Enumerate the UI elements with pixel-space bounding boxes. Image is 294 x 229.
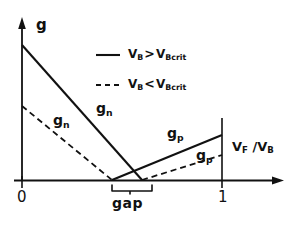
x-axis-label-denominator: V (257, 139, 267, 154)
y-axis (18, 17, 26, 181)
legend-2-lhs-sub: B (137, 83, 143, 92)
tick-label-one: 1 (218, 190, 228, 205)
curve-label-gp-dashed-sub: p (206, 154, 213, 165)
plot-canvas (0, 0, 294, 229)
x-axis-label-numerator: V (232, 139, 242, 154)
legend-2-lhs: V (128, 77, 137, 91)
curve-label-gp-solid: gp (167, 126, 184, 140)
curve-label-gp-solid-sub: p (177, 132, 184, 143)
legend-1-lhs-sub: B (137, 53, 143, 62)
legend-entry-solid-label: VB>VBcrit (128, 48, 186, 61)
legend-1-rhs-sub: Bcrit (165, 53, 186, 62)
gap-brace (112, 185, 152, 194)
legend-2-rhs: V (156, 77, 165, 91)
legend-2-rhs-sub: Bcrit (165, 83, 186, 92)
legend-2-relation: < (143, 76, 156, 91)
legend-1-lhs: V (128, 47, 137, 61)
curve-label-gp-solid-base: g (167, 125, 177, 141)
curve-label-gn-solid-base: g (96, 100, 106, 116)
tick-label-zero: 0 (17, 190, 27, 205)
x-axis (14, 177, 284, 185)
curve-label-gn-dashed-base: g (53, 112, 63, 128)
legend-entry-dashed-label: VB<VBcrit (128, 78, 186, 91)
x-axis-label-slash: / (248, 139, 257, 154)
curve-label-gp-dashed-base: g (196, 147, 206, 163)
curve-label-gn-solid: gn (96, 101, 113, 115)
legend-1-rhs: V (156, 47, 165, 61)
gap-annotation-label: gap (112, 196, 143, 210)
x-axis-label-numerator-sub: F (242, 145, 248, 155)
legend-1-relation: > (143, 46, 156, 61)
x-axis-label: VF /VB (232, 140, 274, 153)
curve-gn-solid (22, 45, 142, 180)
figure-root: g VF /VB 0 1 VB>VBcrit VB<VBcrit gn gn g… (0, 0, 294, 229)
curve-label-gn-dashed-sub: n (63, 119, 70, 130)
curve-label-gn-dashed: gn (53, 113, 70, 127)
curve-label-gp-dashed: gp (196, 148, 213, 162)
x-axis-label-denominator-sub: B (267, 145, 274, 155)
y-axis-label: g (36, 18, 47, 33)
curve-label-gn-solid-sub: n (106, 107, 113, 118)
